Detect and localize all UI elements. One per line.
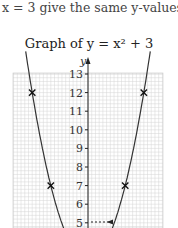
- y-axis-label: y: [79, 55, 87, 68]
- y-tick-label: 7: [76, 180, 83, 193]
- chart-plot: y5678910111213: [0, 0, 178, 228]
- y-tick-label: 8: [76, 161, 83, 174]
- y-tick-label: 13: [69, 68, 83, 81]
- y-axis-arrow-icon: [86, 57, 91, 64]
- y-tick-label: 5: [76, 217, 83, 228]
- y-tick-label: 6: [76, 198, 83, 211]
- y-tick-label: 10: [69, 124, 83, 137]
- arrow-head-icon: [107, 220, 113, 225]
- y-tick-label: 9: [76, 142, 83, 155]
- y-tick-label: 11: [69, 105, 83, 118]
- y-tick-label: 12: [69, 87, 83, 100]
